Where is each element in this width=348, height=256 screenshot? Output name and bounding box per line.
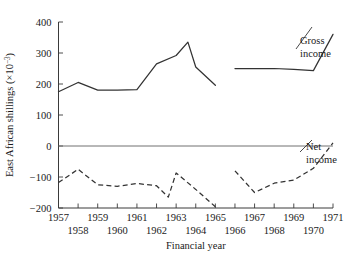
y-tick-label-2: 200 [36, 79, 52, 90]
x-tick-label-lower-1958: 1958 [68, 225, 89, 236]
series-line-net-income-seg1 [59, 169, 216, 207]
x-tick-label-lower-1960: 1960 [107, 225, 128, 236]
series-label-gross-income-line2: income [300, 48, 331, 59]
x-tick-label-lower-1968: 1968 [264, 225, 285, 236]
chart-figure: 4003002001000−100−200 195719591961196319… [0, 0, 348, 256]
x-tick-labels: 1957195919611963196519671969197119581960… [48, 212, 344, 236]
series-label-net-income-line2: income [306, 154, 337, 165]
x-tick-label-upper-1971: 1971 [323, 212, 344, 223]
x-tick-label-lower-1970: 1970 [303, 225, 324, 236]
y-tick-labels: 4003002001000−100−200 [30, 17, 52, 214]
series-label-gross-income-line1: Gross [300, 35, 325, 46]
series-line-gross-income-seg1 [59, 42, 216, 92]
x-axis-title: Financial year [166, 240, 226, 251]
x-tick-label-upper-1963: 1963 [166, 212, 187, 223]
x-tick-label-upper-1965: 1965 [205, 212, 226, 223]
y-tick-label-5: −100 [30, 172, 52, 183]
y-tick-label-4: 0 [46, 141, 51, 152]
y-tick-label-1: 300 [36, 48, 52, 59]
x-tick-label-lower-1964: 1964 [185, 225, 207, 236]
x-tick-label-upper-1961: 1961 [126, 212, 147, 223]
line-chart: 4003002001000−100−200 195719591961196319… [0, 0, 348, 256]
x-tick-label-upper-1967: 1967 [244, 212, 265, 223]
series-label-net-income-line1: Net [306, 141, 321, 152]
x-tick-label-lower-1962: 1962 [146, 225, 167, 236]
x-tick-label-upper-1969: 1969 [283, 212, 304, 223]
x-tick-label-upper-1959: 1959 [87, 212, 108, 223]
x-tick-label-upper-1957: 1957 [48, 212, 69, 223]
y-axis-title: East African shillings (×10−3) [4, 52, 16, 177]
x-tick-label-lower-1966: 1966 [225, 225, 246, 236]
y-tick-label-3: 100 [36, 110, 52, 121]
y-tick-label-0: 400 [36, 17, 52, 28]
series-lines [59, 34, 334, 206]
